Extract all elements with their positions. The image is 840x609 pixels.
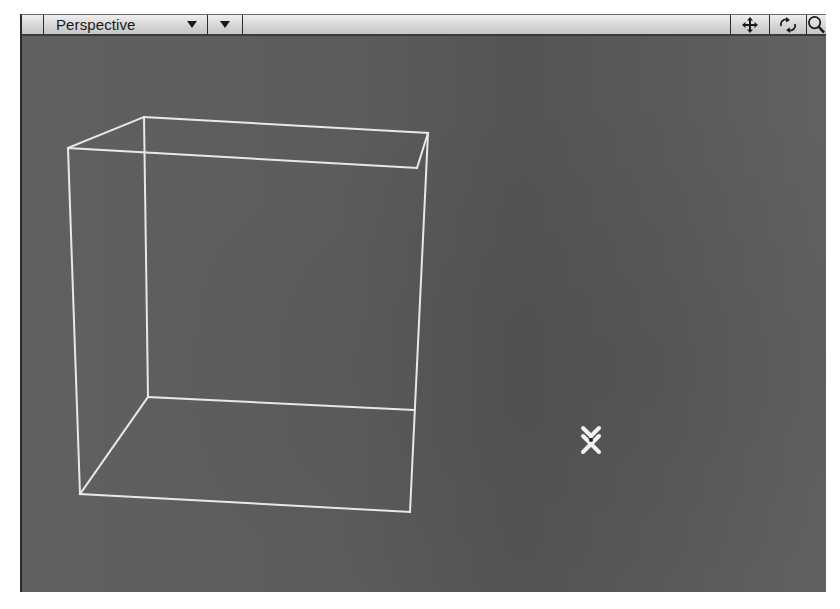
zoom-icon [807, 15, 826, 34]
cube-wireframe [22, 36, 826, 592]
viewport-header: Perspective [22, 14, 826, 36]
move-view-button[interactable] [731, 15, 770, 34]
rotate-icon [778, 16, 798, 34]
chevron-down-icon [187, 21, 197, 28]
header-spacer [243, 15, 731, 34]
viewport-grip[interactable] [22, 15, 44, 34]
rotate-view-button[interactable] [770, 15, 807, 34]
move-icon [741, 16, 759, 34]
view-mode-label: Perspective [56, 16, 135, 33]
chevron-down-icon [220, 21, 230, 28]
3d-viewport-canvas[interactable] [22, 36, 826, 592]
view-mode-dropdown[interactable]: Perspective [44, 15, 208, 34]
zoom-view-button[interactable] [807, 15, 826, 34]
viewport-options-dropdown[interactable] [208, 15, 243, 34]
